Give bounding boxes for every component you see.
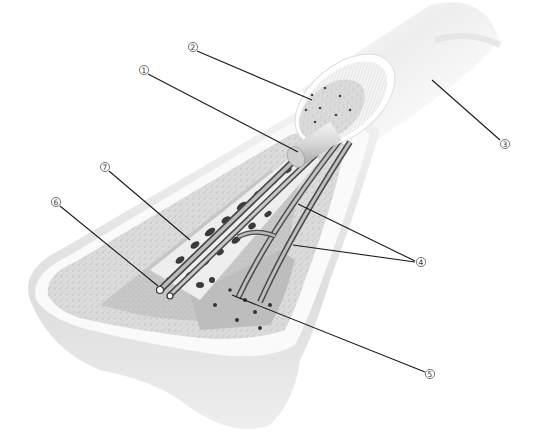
leader-3 [432, 80, 500, 140]
callout-2: 2 [188, 42, 197, 52]
callout-7: 7 [100, 162, 109, 172]
callout-3: 3 [500, 139, 509, 149]
callout-2-label: 2 [191, 43, 196, 52]
callout-7-label: 7 [103, 163, 108, 172]
leader-1 [148, 74, 298, 152]
callout-4-label: 4 [419, 258, 424, 267]
bone-diagram: 1 2 3 4 5 6 7 [0, 0, 536, 443]
leader-2 [197, 51, 312, 100]
callout-6-label: 6 [54, 198, 59, 207]
callout-6: 6 [51, 197, 60, 207]
callout-5-label: 5 [428, 370, 433, 379]
callout-5: 5 [425, 369, 434, 379]
callout-4: 4 [416, 257, 425, 267]
callout-1-label: 1 [142, 66, 147, 75]
callout-3-label: 3 [503, 140, 508, 149]
callout-1: 1 [139, 65, 148, 75]
